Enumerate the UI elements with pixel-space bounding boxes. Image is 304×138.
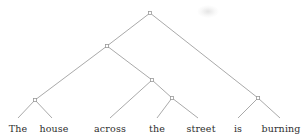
edge-nominal-to-house — [35, 100, 52, 118]
leaf-word-burning: burning — [261, 123, 300, 134]
leaf-word-the-1: The — [9, 123, 28, 134]
edge-pp-to-object-np — [152, 80, 172, 98]
edge-subject-np-to-pp — [107, 46, 152, 80]
edge-pp-to-across — [110, 80, 152, 118]
prepositional-phrase-node — [150, 78, 153, 81]
edge-object-np-to-street — [172, 98, 198, 118]
root-node — [148, 11, 151, 14]
edge-vp-to-is — [238, 98, 258, 118]
subject-np-node — [105, 44, 108, 47]
leaf-word-the-2: the — [149, 123, 165, 134]
syntax-tree-figure: Thehouseacrossthestreetisburning — [0, 0, 304, 138]
edge-root-to-verb-phrase — [150, 13, 258, 98]
edge-nominal-to-the — [18, 100, 35, 118]
verb-phrase-node — [256, 96, 259, 99]
leaf-word-house: house — [39, 123, 68, 134]
leaf-word-across: across — [94, 123, 126, 134]
edge-object-np-to-the — [157, 98, 172, 118]
tree-graphics — [0, 0, 304, 138]
determiner-noun-node — [33, 98, 36, 101]
tree-node-layer — [33, 11, 259, 101]
object-np-node — [170, 96, 173, 99]
leaf-word-is: is — [234, 123, 242, 134]
edge-root-to-subject-np — [107, 13, 150, 46]
edge-vp-to-burning — [258, 98, 280, 118]
edge-subject-np-to-nominal — [35, 46, 107, 100]
leaf-word-street: street — [186, 123, 215, 134]
tree-edge-layer — [18, 13, 280, 118]
